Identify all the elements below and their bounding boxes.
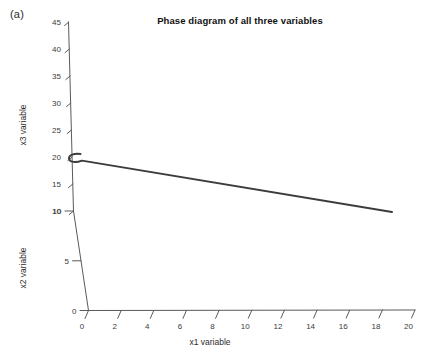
x1-tick-label: 10 [241, 322, 250, 331]
x2-tick-label: 5 [65, 257, 70, 266]
x2-tick-label: 10 [53, 207, 62, 216]
x1-tick-label: 18 [371, 322, 380, 331]
x1-tick-label: 6 [178, 322, 183, 331]
trajectory-series [69, 154, 392, 212]
x3-axis-tick-labels: 45 40 35 30 25 20 15 10 [52, 18, 61, 216]
x1-tick-label: 4 [145, 322, 150, 331]
chart-canvas: 45 40 35 30 25 20 15 10 x3 variable 10 5 [0, 0, 442, 357]
x1-tick-label: 20 [404, 322, 413, 331]
x3-tick-label: 20 [52, 153, 61, 162]
x1-axis: 0 2 4 6 8 10 12 14 16 18 20 x1 variable [80, 310, 415, 347]
x1-tick-label: 14 [306, 322, 315, 331]
x3-tick-label: 30 [52, 99, 61, 108]
x3-axis-line [69, 22, 74, 211]
x1-tick-label: 0 [80, 322, 85, 331]
x3-tick-label: 15 [52, 180, 61, 189]
x3-tick-label: 45 [52, 18, 61, 27]
x1-axis-ticks [85, 310, 415, 319]
x2-axis-title: x2 variable [18, 247, 28, 288]
trajectory-line [69, 154, 392, 212]
x3-tick-label: 40 [52, 45, 61, 54]
x3-tick-label: 35 [52, 72, 61, 81]
x1-tick-label: 12 [273, 322, 282, 331]
phase-diagram-figure: (a) Phase diagram of all three variables… [0, 0, 442, 357]
x1-axis-tick-labels: 0 2 4 6 8 10 12 14 16 18 20 [80, 322, 414, 331]
x1-tick-label: 8 [210, 322, 215, 331]
x3-axis-title: x3 variable [18, 104, 28, 145]
x3-tick-label: 25 [52, 126, 61, 135]
x3-axis: 45 40 35 30 25 20 15 10 x3 variable [18, 18, 74, 216]
x1-axis-title: x1 variable [189, 337, 230, 347]
x1-tick-label: 2 [112, 322, 117, 331]
x1-tick-label: 16 [339, 322, 348, 331]
x2-axis: 10 5 0 x2 variable [18, 207, 89, 316]
x2-tick-label: 0 [72, 307, 77, 316]
